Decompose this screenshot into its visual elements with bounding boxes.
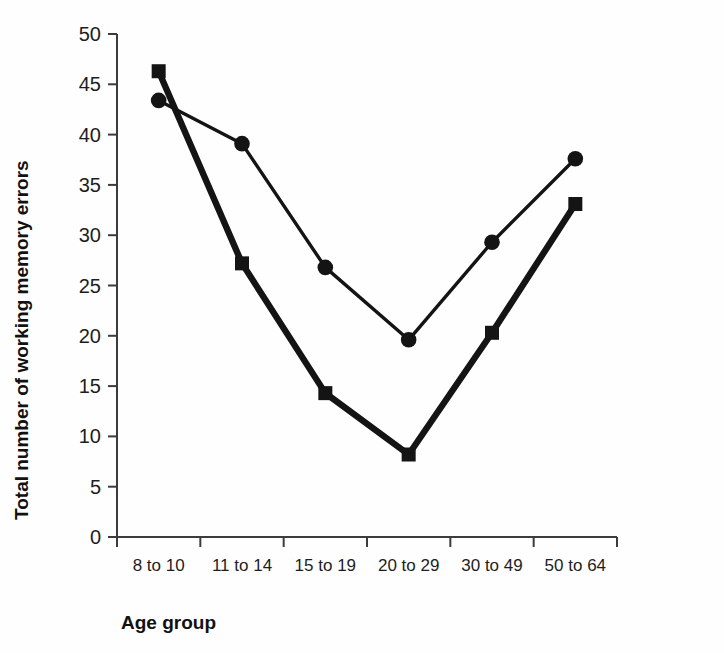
y-tick-label: 15 bbox=[79, 375, 101, 397]
x-axis-tick-labels: 8 to 1011 to 1415 to 1920 to 2930 to 495… bbox=[133, 556, 606, 575]
y-tick-label: 30 bbox=[79, 224, 101, 246]
series-line-square bbox=[159, 71, 576, 454]
data-point-circle bbox=[318, 260, 334, 276]
x-tick-label: 50 to 64 bbox=[545, 556, 606, 575]
y-axis-ticks bbox=[108, 34, 117, 537]
data-point-circle bbox=[234, 136, 250, 152]
data-point-square bbox=[402, 448, 416, 462]
x-tick-label: 20 to 29 bbox=[378, 556, 439, 575]
data-point-square bbox=[568, 197, 582, 211]
data-point-circle bbox=[484, 234, 500, 250]
data-point-square bbox=[318, 386, 332, 400]
line-chart: 05101520253035404550 8 to 1011 to 1415 t… bbox=[0, 0, 724, 653]
x-tick-label: 11 to 14 bbox=[212, 556, 272, 575]
y-tick-label: 10 bbox=[79, 425, 101, 447]
chart-figure: 05101520253035404550 8 to 1011 to 1415 t… bbox=[0, 0, 724, 653]
x-axis-title: Age group bbox=[121, 612, 216, 633]
y-tick-label: 40 bbox=[79, 124, 101, 146]
y-tick-label: 45 bbox=[79, 73, 101, 95]
y-axis-title: Total number of working memory errors bbox=[11, 160, 32, 520]
x-axis-ticks bbox=[117, 537, 617, 547]
y-tick-label: 20 bbox=[79, 325, 101, 347]
y-tick-label: 5 bbox=[90, 476, 101, 498]
series-lines bbox=[159, 71, 576, 454]
x-tick-label: 8 to 10 bbox=[133, 556, 185, 575]
data-point-square bbox=[235, 256, 249, 270]
y-tick-label: 25 bbox=[79, 275, 101, 297]
x-tick-label: 30 to 49 bbox=[461, 556, 522, 575]
y-axis-tick-labels: 05101520253035404550 bbox=[79, 23, 101, 548]
series-markers bbox=[151, 64, 583, 461]
data-point-square bbox=[152, 64, 166, 78]
data-point-square bbox=[485, 326, 499, 340]
data-point-circle bbox=[568, 151, 584, 167]
y-tick-label: 50 bbox=[79, 23, 101, 45]
y-tick-label: 35 bbox=[79, 174, 101, 196]
data-point-circle bbox=[401, 332, 417, 348]
y-tick-label: 0 bbox=[90, 526, 101, 548]
data-point-circle bbox=[151, 93, 167, 109]
x-tick-label: 15 to 19 bbox=[295, 556, 356, 575]
